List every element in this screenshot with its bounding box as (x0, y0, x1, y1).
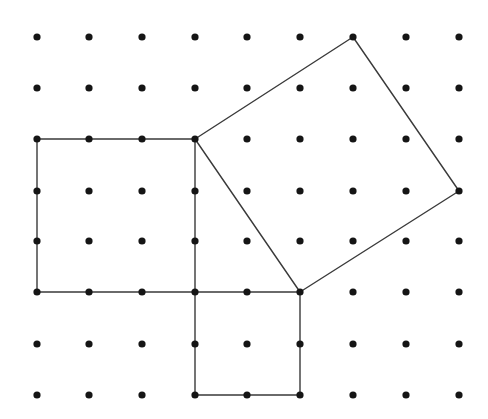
grid-dot (138, 237, 145, 244)
grid-dot (191, 340, 198, 347)
grid-dot (243, 33, 250, 40)
grid-dot (85, 288, 92, 295)
grid-dot (243, 84, 250, 91)
grid-dot (349, 84, 356, 91)
grid-dot (455, 187, 462, 194)
grid-dot (243, 288, 250, 295)
grid-dot (33, 288, 40, 295)
grid-dot (349, 135, 356, 142)
grid-dot (402, 391, 409, 398)
grid-dot (243, 340, 250, 347)
grid-dot (138, 340, 145, 347)
grid-dot (138, 187, 145, 194)
grid-dot (455, 340, 462, 347)
grid-dot (33, 391, 40, 398)
grid-dot (455, 391, 462, 398)
grid-dot (85, 391, 92, 398)
grid-dot (33, 237, 40, 244)
grid-dot (138, 288, 145, 295)
grid-dot (349, 288, 356, 295)
grid-dot (85, 84, 92, 91)
tilted-square (195, 37, 459, 292)
grid-dot (85, 33, 92, 40)
grid-dot (296, 135, 303, 142)
grid-dot (402, 340, 409, 347)
grid-dot (455, 135, 462, 142)
grid-dot (138, 135, 145, 142)
grid-dot (296, 187, 303, 194)
grid-dot (33, 135, 40, 142)
grid-dot (402, 288, 409, 295)
grid-dot (402, 135, 409, 142)
grid-dot (402, 33, 409, 40)
grid-dot (296, 33, 303, 40)
grid-dot (33, 187, 40, 194)
grid-dot (243, 391, 250, 398)
grid-dot (138, 84, 145, 91)
grid-dot (191, 135, 198, 142)
grid-dot (296, 391, 303, 398)
grid-dot (349, 33, 356, 40)
grid-dot (243, 237, 250, 244)
grid-dot (191, 84, 198, 91)
grid-dot (33, 340, 40, 347)
grid-dot (455, 84, 462, 91)
grid-dot (349, 391, 356, 398)
grid-dot (296, 237, 303, 244)
grid-dot (455, 288, 462, 295)
grid-dot (85, 187, 92, 194)
grid-dot (85, 340, 92, 347)
grid-dot (296, 340, 303, 347)
grid-dot (191, 187, 198, 194)
grid-dot (243, 187, 250, 194)
grid-dot (85, 135, 92, 142)
grid-dot (243, 135, 250, 142)
grid-dot (296, 288, 303, 295)
grid-dot (85, 237, 92, 244)
grid-dot (33, 84, 40, 91)
left-square (37, 139, 195, 292)
grid-dot (191, 33, 198, 40)
grid-dot (191, 237, 198, 244)
grid-dot (402, 187, 409, 194)
grid-dot (191, 288, 198, 295)
grid-dot (296, 84, 303, 91)
dot-grid-diagram (0, 0, 488, 419)
grid-dot (455, 237, 462, 244)
grid-dot (349, 187, 356, 194)
grid-dot (349, 237, 356, 244)
grid-dot (349, 340, 356, 347)
grid-dot (191, 391, 198, 398)
grid-dot (138, 33, 145, 40)
grid-dot (402, 237, 409, 244)
grid-dot (33, 33, 40, 40)
grid-dot (138, 391, 145, 398)
grid-dot (402, 84, 409, 91)
grid-dot (455, 33, 462, 40)
